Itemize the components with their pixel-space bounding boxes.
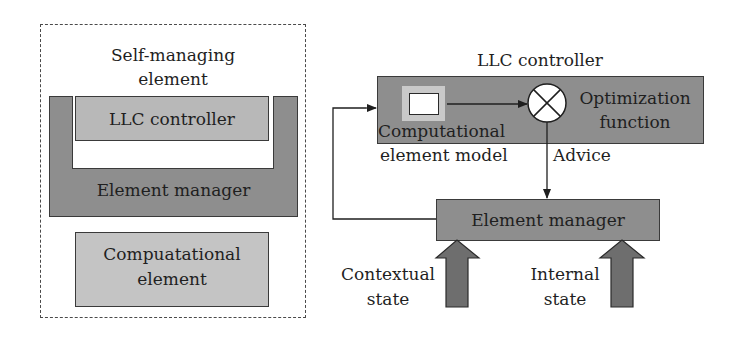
internal-state-arrow [600,240,644,307]
optimization-multiplier-icon [528,84,566,122]
feedback-loop-line [333,108,436,219]
contextual-state-arrow [436,240,479,307]
connector-layer [0,0,740,340]
